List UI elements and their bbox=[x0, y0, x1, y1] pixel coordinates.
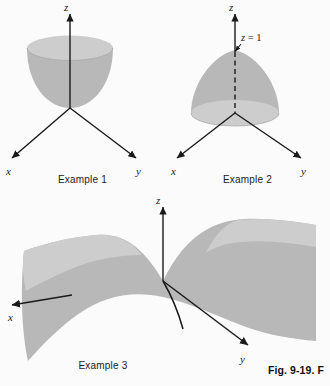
y-axis bbox=[70, 108, 136, 158]
example-2-panel: z z = 1 x y Example 2 bbox=[165, 0, 330, 195]
example-2-caption: Example 2 bbox=[165, 174, 330, 185]
figure-page: z x y Example 1 bbox=[0, 0, 330, 386]
z-axis-label: z bbox=[155, 194, 161, 206]
z-axis-label: z bbox=[63, 1, 69, 13]
z-equals-one-leader bbox=[236, 44, 242, 51]
figure-number-caption: Fig. 9-19. F bbox=[268, 364, 324, 376]
z-equals-one-label: z = 1 bbox=[240, 32, 262, 43]
example-3-panel: z x y Example 3 bbox=[0, 193, 330, 386]
x-axis bbox=[12, 108, 70, 158]
z-axis-label: z bbox=[228, 1, 234, 13]
example-3-caption: Example 3 bbox=[0, 360, 268, 371]
x-axis-label: x bbox=[7, 311, 13, 323]
example-3-diagram: z x y bbox=[0, 193, 330, 386]
example-2-diagram: z z = 1 x y bbox=[165, 0, 330, 195]
example-1-caption: Example 1 bbox=[0, 174, 165, 185]
example-1-panel: z x y Example 1 bbox=[0, 0, 165, 195]
example-1-diagram: z x y bbox=[0, 0, 165, 195]
